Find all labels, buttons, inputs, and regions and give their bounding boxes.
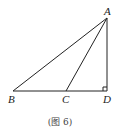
label-b: B	[8, 94, 15, 105]
segment-ab	[13, 18, 107, 91]
segment-ac	[66, 18, 107, 91]
label-a: A	[104, 6, 111, 17]
label-c: C	[62, 94, 69, 105]
figure-caption: (图 6)	[0, 115, 120, 128]
right-angle-mark	[103, 87, 107, 91]
label-d: D	[103, 94, 111, 105]
